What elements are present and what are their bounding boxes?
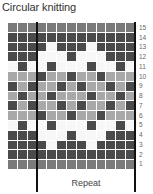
row-label: 12: [139, 52, 153, 62]
stitch-cell: [18, 23, 27, 32]
stitch-cell: [38, 160, 47, 169]
stitch-cell: [97, 111, 106, 120]
stitch-cell: [47, 111, 56, 120]
stitch-cell: [67, 33, 76, 42]
stitch-cell: [116, 72, 125, 81]
stitch-cell: [18, 62, 27, 71]
stitch-cell: [116, 33, 125, 42]
stitch-cell: [38, 101, 47, 110]
stitch-cell: [106, 111, 115, 120]
stitch-cell: [116, 101, 125, 110]
stitch-cell: [116, 62, 125, 71]
stitch-cell: [8, 101, 17, 110]
stitch-cell: [18, 150, 27, 159]
stitch-cell: [38, 141, 47, 150]
stitch-cell: [87, 92, 96, 101]
stitch-cell: [38, 43, 47, 52]
stitch-cell: [106, 43, 115, 52]
stitch-cell: [8, 111, 17, 120]
stitch-cell: [38, 52, 47, 61]
stitch-cell: [8, 131, 17, 140]
stitch-cell: [77, 43, 86, 52]
stitch-cell: [8, 33, 17, 42]
stitch-cell: [106, 101, 115, 110]
stitch-cell: [87, 131, 96, 140]
knitting-chart-grid: [8, 23, 135, 169]
stitch-cell: [38, 82, 47, 91]
stitch-cell: [97, 150, 106, 159]
stitch-cell: [57, 121, 66, 130]
stitch-cell: [106, 82, 115, 91]
stitch-cell: [8, 43, 17, 52]
row-label: 5: [139, 120, 153, 130]
stitch-cell: [116, 160, 125, 169]
stitch-cell: [97, 43, 106, 52]
stitch-cell: [77, 111, 86, 120]
stitch-cell: [47, 101, 56, 110]
stitch-cell: [8, 121, 17, 130]
stitch-cell: [97, 62, 106, 71]
stitch-cell: [67, 131, 76, 140]
stitch-cell: [47, 150, 56, 159]
stitch-cell: [38, 121, 47, 130]
stitch-cell: [97, 121, 106, 130]
stitch-cell: [106, 23, 115, 32]
stitch-cell: [77, 160, 86, 169]
stitch-cell: [18, 33, 27, 42]
stitch-cell: [38, 33, 47, 42]
stitch-cell: [106, 62, 115, 71]
stitch-cell: [87, 141, 96, 150]
stitch-cell: [77, 150, 86, 159]
stitch-cell: [97, 82, 106, 91]
stitch-cell: [97, 23, 106, 32]
stitch-cell: [87, 62, 96, 71]
stitch-cell: [67, 101, 76, 110]
stitch-cell: [8, 92, 17, 101]
stitch-cell: [47, 72, 56, 81]
stitch-cell: [116, 92, 125, 101]
stitch-cell: [77, 121, 86, 130]
stitch-cell: [77, 101, 86, 110]
stitch-cell: [97, 131, 106, 140]
stitch-cell: [18, 52, 27, 61]
row-number-labels: 151413121110987654321: [139, 23, 153, 169]
stitch-cell: [47, 92, 56, 101]
stitch-cell: [67, 23, 76, 32]
stitch-cell: [77, 33, 86, 42]
stitch-cell: [97, 52, 106, 61]
stitch-cell: [57, 160, 66, 169]
stitch-cell: [87, 52, 96, 61]
stitch-cell: [8, 141, 17, 150]
row-label: 1: [139, 159, 153, 169]
stitch-cell: [8, 160, 17, 169]
stitch-cell: [67, 111, 76, 120]
stitch-cell: [57, 23, 66, 32]
stitch-cell: [38, 131, 47, 140]
stitch-cell: [106, 131, 115, 140]
stitch-cell: [77, 23, 86, 32]
stitch-cell: [116, 150, 125, 159]
stitch-cell: [38, 150, 47, 159]
stitch-cell: [57, 82, 66, 91]
stitch-cell: [97, 101, 106, 110]
stitch-cell: [77, 72, 86, 81]
stitch-cell: [87, 101, 96, 110]
stitch-cell: [116, 141, 125, 150]
stitch-cell: [87, 33, 96, 42]
stitch-cell: [8, 62, 17, 71]
stitch-cell: [18, 121, 27, 130]
stitch-cell: [57, 141, 66, 150]
stitch-cell: [97, 33, 106, 42]
stitch-cell: [47, 23, 56, 32]
stitch-cell: [116, 111, 125, 120]
stitch-cell: [67, 43, 76, 52]
stitch-cell: [87, 150, 96, 159]
stitch-cell: [8, 23, 17, 32]
stitch-cell: [57, 43, 66, 52]
stitch-cell: [38, 92, 47, 101]
stitch-cell: [47, 141, 56, 150]
repeat-boundary-left: [36, 22, 38, 192]
stitch-cell: [47, 160, 56, 169]
stitch-cell: [67, 150, 76, 159]
stitch-cell: [77, 141, 86, 150]
